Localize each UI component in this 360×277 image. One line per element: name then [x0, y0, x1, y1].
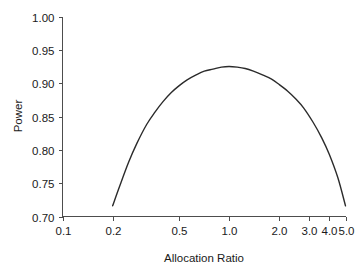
y-tick-label: 0.85: [32, 112, 54, 124]
power-curve: [113, 67, 346, 206]
x-tick-label: 2.0: [272, 225, 288, 237]
x-tick-group: [64, 217, 347, 221]
x-tick-label-group: 0.10.20.51.02.03.04.05.0: [56, 225, 355, 237]
chart-canvas: 0.700.750.800.850.900.951.00 Power 0.10.…: [0, 0, 360, 277]
power-allocation-ratio-chart: 0.700.750.800.850.900.951.00 Power 0.10.…: [0, 0, 360, 277]
y-tick-label: 0.80: [32, 145, 54, 157]
x-tick-label: 5.0: [339, 225, 355, 237]
y-tick-label: 0.90: [32, 78, 54, 90]
x-tick-label: 3.0: [302, 225, 318, 237]
x-tick-label: 0.1: [56, 225, 72, 237]
x-tick-label: 0.2: [106, 225, 122, 237]
x-axis: 0.10.20.51.02.03.04.05.0 Allocation Rati…: [56, 217, 355, 265]
y-tick-label-group: 0.700.750.800.850.900.951.00: [32, 12, 54, 224]
x-tick-label: 4.0: [322, 225, 338, 237]
x-axis-title: Allocation Ratio: [164, 252, 244, 264]
y-tick-label: 0.70: [32, 212, 54, 224]
y-tick-label: 0.75: [32, 178, 54, 190]
y-tick-label: 0.95: [32, 45, 54, 57]
y-axis-title: Power: [12, 100, 24, 133]
x-tick-label: 0.5: [172, 225, 188, 237]
y-axis: 0.700.750.800.850.900.951.00 Power: [12, 12, 63, 224]
y-tick-group: [59, 18, 63, 218]
y-tick-label: 1.00: [32, 12, 54, 24]
x-tick-label: 1.0: [222, 225, 238, 237]
